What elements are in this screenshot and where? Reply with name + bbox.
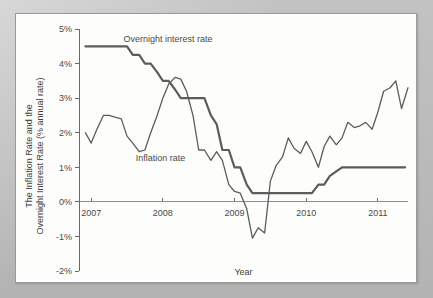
y-axis-title-line-2: Overnight Interest Rate (% annual rate)	[35, 77, 45, 234]
figure-panel: The Inflation Rate and theOvernight Inte…	[15, 13, 417, 283]
x-tick-label: 2009	[225, 208, 245, 218]
y-tick-label: 0%	[59, 197, 72, 207]
y-tick-label: 5%	[59, 24, 72, 34]
x-tick-label: 2010	[296, 208, 316, 218]
x-axis-title: Year	[234, 267, 252, 277]
chart-root: The Inflation Rate and theOvernight Inte…	[16, 14, 416, 282]
annotation-inflation-rate: Inflation rate	[136, 153, 186, 163]
y-tick-label: 2%	[59, 128, 72, 138]
y-axis-ticks: 5%4%3%2%1%0%-1%-2%	[56, 24, 79, 276]
y-tick-label: 4%	[59, 59, 72, 69]
y-axis-title-line-1: The Inflation Rate and the	[24, 104, 34, 208]
annotation-overnight-interest-rate: Overnight interest rate	[123, 34, 212, 44]
series-line-inflation-rate	[85, 77, 408, 238]
y-axis-title: The Inflation Rate and theOvernight Inte…	[24, 77, 45, 234]
y-tick-label: 3%	[59, 93, 72, 103]
series-line-overnight-interest-rate	[85, 46, 405, 193]
x-tick-label: 2008	[153, 208, 173, 218]
x-axis-ticks: 20072008200920102011	[81, 198, 387, 218]
series-lines	[85, 46, 408, 238]
y-tick-label: -2%	[56, 266, 72, 276]
x-tick-label: 2007	[81, 208, 101, 218]
y-tick-label: -1%	[56, 232, 72, 242]
x-tick-label: 2011	[368, 208, 387, 218]
y-tick-label: 1%	[59, 163, 72, 173]
x-axis-title-label: Year	[234, 267, 252, 277]
line-chart: The Inflation Rate and theOvernight Inte…	[16, 14, 416, 282]
